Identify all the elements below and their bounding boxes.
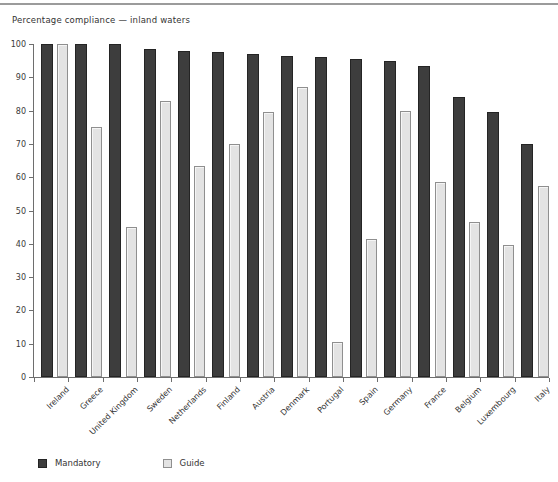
x-label-germany: Germany — [382, 385, 414, 417]
y-tick-label: 100 — [11, 40, 26, 49]
x-label-italy: Italy — [533, 385, 552, 404]
bar-group-united-kingdom — [103, 44, 137, 377]
bar-guide-belgium — [469, 222, 480, 377]
bar-mandatory-belgium — [453, 97, 465, 377]
x-tick — [412, 378, 413, 382]
bar-mandatory-italy — [521, 144, 533, 377]
x-tick — [343, 378, 344, 382]
bar-group-france — [412, 44, 446, 377]
y-tick-label: 50 — [16, 206, 26, 215]
y-tick-label: 90 — [16, 73, 26, 82]
y-tick-label: 10 — [16, 339, 26, 348]
x-tick — [206, 378, 207, 382]
x-tick — [240, 378, 241, 382]
y-tick — [29, 44, 33, 45]
bar-guide-greece — [91, 127, 102, 377]
bar-group-finland — [206, 44, 240, 377]
x-tick — [309, 378, 310, 382]
legend-swatch-mandatory — [38, 459, 47, 468]
bar-mandatory-united-kingdom — [109, 44, 121, 377]
bar-mandatory-netherlands — [178, 51, 190, 377]
bar-group-greece — [68, 44, 102, 377]
bar-guide-ireland — [57, 44, 68, 377]
bar-group-netherlands — [171, 44, 205, 377]
chart-title: Percentage compliance — inland waters — [12, 15, 190, 25]
x-label-belgium: Belgium — [453, 385, 483, 415]
bar-mandatory-spain — [350, 59, 362, 377]
bar-guide-finland — [229, 144, 240, 377]
y-tick-label: 70 — [16, 139, 26, 148]
x-tick — [171, 378, 172, 382]
bar-guide-luxembourg — [503, 245, 514, 377]
x-tick — [377, 378, 378, 382]
bar-mandatory-france — [418, 66, 430, 377]
y-tick — [29, 377, 33, 378]
x-label-ireland: Ireland — [45, 385, 71, 411]
x-label-denmark: Denmark — [279, 385, 311, 417]
x-tick — [480, 378, 481, 382]
bar-guide-spain — [366, 239, 377, 377]
bar-guide-portugal — [332, 342, 343, 377]
bar-mandatory-austria — [247, 54, 259, 377]
bar-guide-france — [435, 182, 446, 377]
bar-mandatory-finland — [212, 52, 224, 377]
y-tick-label: 40 — [16, 239, 26, 248]
bar-group-italy — [515, 44, 549, 377]
x-tick — [274, 378, 275, 382]
x-tick — [103, 378, 104, 382]
y-tick — [29, 77, 33, 78]
y-tick — [29, 277, 33, 278]
x-tick — [549, 378, 550, 382]
bar-mandatory-denmark — [281, 56, 293, 377]
bar-guide-italy — [538, 186, 549, 377]
bar-group-belgium — [446, 44, 480, 377]
bar-mandatory-luxembourg — [487, 112, 499, 377]
x-tick — [446, 378, 447, 382]
x-label-finland: Finland — [216, 385, 243, 412]
bar-group-denmark — [274, 44, 308, 377]
legend: Mandatory Guide — [38, 458, 205, 468]
x-label-sweden: Sweden — [145, 385, 174, 414]
y-tick-label: 20 — [16, 306, 26, 315]
legend-swatch-guide — [163, 459, 172, 468]
bar-group-portugal — [309, 44, 343, 377]
y-tick — [29, 310, 33, 311]
bar-group-austria — [240, 44, 274, 377]
x-label-spain: Spain — [358, 385, 380, 407]
bar-mandatory-germany — [384, 61, 396, 377]
x-tick — [137, 378, 138, 382]
bar-mandatory-sweden — [144, 49, 156, 377]
bar-guide-sweden — [160, 101, 171, 377]
top-rule — [0, 3, 558, 5]
bar-group-spain — [343, 44, 377, 377]
bar-group-germany — [377, 44, 411, 377]
x-tick — [34, 378, 35, 382]
x-label-austria: Austria — [250, 385, 276, 411]
x-tick — [515, 378, 516, 382]
y-tick — [29, 177, 33, 178]
bar-guide-united-kingdom — [126, 227, 137, 377]
bar-guide-austria — [263, 112, 274, 377]
bar-guide-germany — [400, 111, 411, 377]
bar-mandatory-greece — [75, 44, 87, 377]
legend-label-guide: Guide — [180, 458, 205, 468]
y-tick — [29, 144, 33, 145]
y-tick-label: 60 — [16, 173, 26, 182]
legend-label-mandatory: Mandatory — [55, 458, 101, 468]
x-tick — [68, 378, 69, 382]
bar-group-ireland — [34, 44, 68, 377]
chart-page: Percentage compliance — inland waters 01… — [0, 0, 558, 482]
y-tick — [29, 111, 33, 112]
y-tick-label: 30 — [16, 273, 26, 282]
x-label-greece: Greece — [79, 385, 106, 412]
y-tick-label: 0 — [21, 373, 26, 382]
y-tick — [29, 244, 33, 245]
x-label-france: France — [423, 385, 448, 410]
bar-mandatory-portugal — [315, 57, 327, 377]
bar-guide-denmark — [297, 87, 308, 377]
y-tick — [29, 344, 33, 345]
bar-group-luxembourg — [480, 44, 514, 377]
x-label-portugal: Portugal — [316, 385, 346, 415]
plot-area: 0102030405060708090100IrelandGreeceUnite… — [33, 44, 549, 378]
bar-guide-netherlands — [194, 166, 205, 377]
